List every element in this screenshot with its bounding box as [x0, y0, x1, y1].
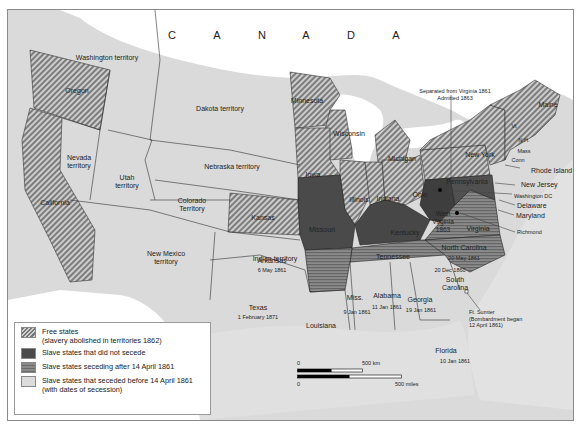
legend: Free states (slavery abolished in territ… [14, 322, 211, 415]
label-wisconsin: Wisconsin [333, 130, 365, 138]
scale-km-label: 500 km [362, 360, 380, 367]
legend-label: Slave states seceding after 14 April 186… [42, 362, 174, 371]
label-georgia: Georgia [408, 296, 433, 304]
label-minnesota: Minnesota [291, 97, 323, 105]
miles-bar-fill [298, 375, 350, 378]
label-pennsylvania: Pennsylvania [446, 178, 488, 186]
free-states-swatch [21, 327, 36, 338]
canada-letter: D [347, 31, 355, 39]
legend-item-free-states: Free states (slavery abolished in territ… [21, 327, 204, 345]
legend-label: Slave states that did not secede [42, 348, 145, 357]
label-west-virginia: West Virginia 1863 [432, 210, 454, 234]
label-washington-territory: Washington territory [76, 54, 138, 62]
label-indiana: Indiana [377, 195, 400, 203]
label-south-carolina: South Carolina [442, 276, 468, 292]
label-north-carolina-date: 20 May 1861 [448, 255, 480, 262]
label-maryland: Maryland [516, 212, 545, 220]
label-oregon: Oregon [65, 87, 88, 95]
label-alabama: Alabama [373, 292, 401, 300]
label-delaware: Delaware [517, 202, 547, 210]
label-new-jersey: New Jersey [521, 181, 558, 189]
label-ohio: Ohio [413, 191, 428, 199]
label-vermont: Vt [511, 123, 516, 130]
label-missouri: Missouri [309, 226, 335, 234]
label-washington-dc: Washington DC [514, 193, 552, 200]
label-connecticut: Conn [511, 157, 524, 164]
canada-letter: C [168, 31, 176, 39]
label-georgia-date: 19 Jan 1861 [406, 307, 436, 314]
legend-label: Slave states that seceded before 14 Apri… [42, 376, 193, 394]
km-bar-fill [298, 369, 332, 372]
label-maine: Maine [538, 101, 557, 109]
canada-letter: A [302, 31, 309, 39]
label-richmond: Richmond [517, 229, 542, 236]
label-tennessee: Tennessee [376, 253, 410, 261]
label-new-mexico-territory: New Mexico territory [147, 250, 185, 266]
legend-item-seceded-before: Slave states that seceded before 14 Apri… [21, 376, 204, 394]
label-dakota-territory: Dakota territory [196, 105, 244, 113]
label-virginia: Virginia [466, 225, 489, 233]
seceded-after-swatch [21, 362, 36, 373]
label-arkansas-date: 6 May 1861 [258, 267, 287, 274]
label-rhode-island: Rhode Island [531, 167, 572, 175]
label-kentucky: Kentucky [391, 229, 420, 237]
label-california: California [40, 199, 70, 207]
scale-miles-zero: 0 [297, 381, 300, 388]
label-illinois: Illinois [349, 196, 368, 204]
label-new-hampshire: N.H. [519, 137, 530, 144]
label-massachusetts: Mass [517, 148, 530, 155]
washington-dc-marker [438, 188, 442, 192]
canada-letter: A [392, 31, 399, 39]
label-utah-territory: Utah territory [115, 174, 139, 190]
label-texas-date: 1 February 1871 [238, 314, 278, 321]
label-florida: Florida [435, 347, 456, 355]
legend-item-no-secede: Slave states that did not secede [21, 348, 204, 359]
label-alabama-date: 11 Jan 1861 [372, 304, 402, 311]
label-nebraska-territory: Nebraska territory [204, 163, 260, 171]
label-michigan: Michigan [388, 155, 416, 163]
label-mississippi-date: 9 Jan 1861 [343, 309, 370, 316]
label-florida-date: 10 Jan 1861 [440, 358, 470, 365]
label-new-york: New York [465, 151, 495, 159]
label-mississippi: Miss. [347, 294, 363, 302]
scale-miles-label: 500 miles [395, 381, 419, 388]
no-secede-swatch [21, 348, 36, 359]
label-louisiana: Louisiana [306, 322, 336, 330]
seceded-before-swatch [21, 376, 36, 387]
label-north-carolina: North Carolina [441, 244, 486, 252]
state-arkansas [305, 248, 352, 292]
west-virginia-note: Separated from Virginia 1861 Admitted 18… [419, 88, 490, 101]
label-fort-sumter: Ft. Sumter (Bombardment began 12 April 1… [469, 309, 522, 329]
label-colorado-territory: Colorado Territory [178, 197, 206, 213]
legend-item-seceded-after: Slave states seceding after 14 April 186… [21, 362, 204, 373]
canada-letter: N [258, 31, 266, 39]
canada-letter: A [213, 31, 220, 39]
richmond-marker [455, 211, 459, 215]
label-kansas: Kansas [251, 214, 274, 222]
legend-label: Free states (slavery abolished in territ… [42, 327, 162, 345]
scale-km-zero: 0 [297, 360, 300, 367]
label-south-carolina-date: 20 Dec 1860 [434, 267, 465, 274]
label-arkansas: Arkansas [257, 257, 286, 265]
label-texas: Texas [249, 304, 267, 312]
label-iowa: Iowa [306, 171, 321, 179]
label-nevada-territory: Nevada territory [67, 154, 91, 170]
